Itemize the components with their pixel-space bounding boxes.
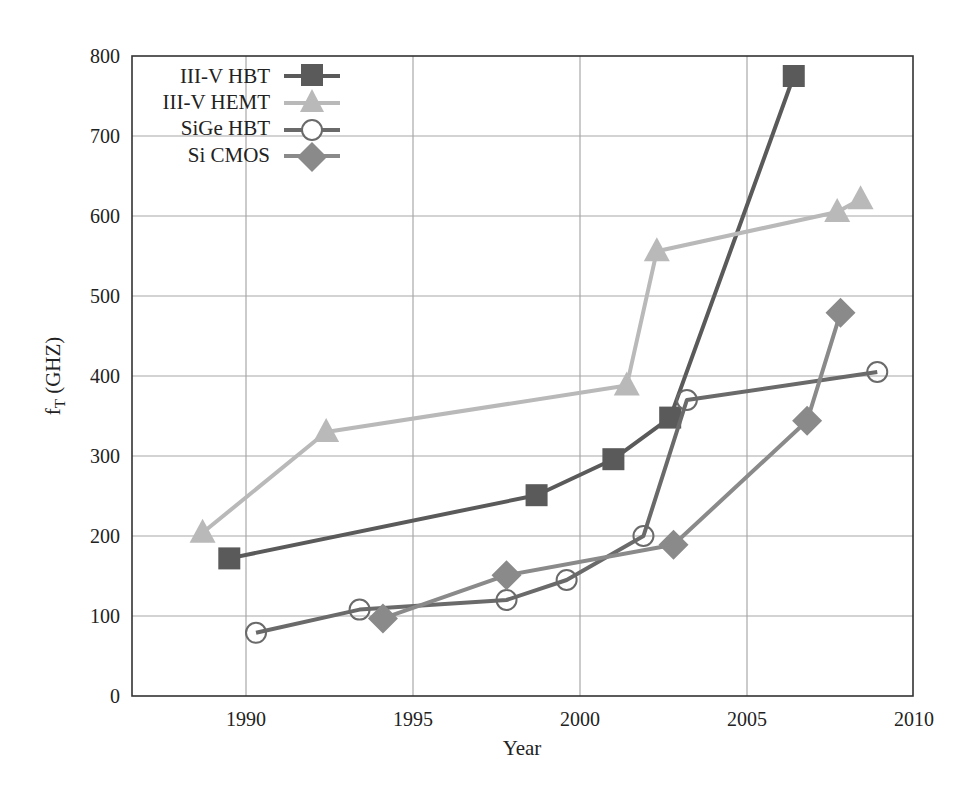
x-axis-title: Year: [503, 736, 542, 760]
square-marker: [602, 448, 624, 470]
x-tick-label: 2000: [560, 708, 600, 730]
triangle-marker: [190, 519, 216, 543]
legend-item-iii-v-hemt: III-V HEMT: [162, 89, 340, 114]
y-tick-label: 300: [90, 445, 120, 467]
circle-marker-icon: [302, 120, 322, 140]
triangle-marker: [848, 185, 874, 209]
triangle-marker: [824, 198, 850, 222]
x-tick-label: 1990: [226, 708, 266, 730]
x-tick-label: 2005: [727, 708, 767, 730]
square-marker-icon: [301, 64, 323, 86]
y-axis-title-unit: (GHZ): [41, 337, 65, 399]
square-marker: [783, 65, 805, 87]
legend-item-si-cmos: Si CMOS: [188, 142, 340, 172]
diamond-marker: [492, 560, 522, 590]
legend-item-iii-v-hbt: III-V HBT: [180, 64, 340, 88]
y-tick-label: 400: [90, 365, 120, 387]
data-series: [190, 65, 888, 643]
y-tick-label: 500: [90, 285, 120, 307]
y-axis-ticks: 0100200300400500600700800: [90, 45, 120, 707]
triangle-marker: [614, 372, 640, 396]
diamond-marker: [826, 298, 856, 328]
legend-label: Si CMOS: [188, 143, 270, 167]
line-chart: 0100200300400500600700800 19901995200020…: [0, 0, 975, 792]
y-axis-title: fT (GHZ): [41, 337, 68, 416]
series-iii-v-hbt: [218, 65, 804, 569]
series-sige-hbt: [246, 362, 887, 643]
x-axis-ticks: 19901995200020052010: [226, 708, 934, 730]
y-axis-title-subscript: T: [52, 399, 68, 408]
legend-label: III-V HEMT: [162, 90, 270, 114]
y-tick-label: 800: [90, 45, 120, 67]
x-tick-label: 2010: [894, 708, 934, 730]
y-tick-label: 600: [90, 205, 120, 227]
square-marker: [218, 547, 240, 569]
legend-item-sige-hbt: SiGe HBT: [181, 116, 340, 140]
y-tick-label: 200: [90, 525, 120, 547]
y-tick-label: 0: [110, 685, 120, 707]
legend-label: III-V HBT: [180, 64, 270, 88]
legend: III-V HBT III-V HEMT SiGe HBT Si CMOS: [162, 64, 340, 172]
series-line: [256, 372, 877, 633]
square-marker: [526, 484, 548, 506]
y-tick-label: 700: [90, 125, 120, 147]
legend-label: SiGe HBT: [181, 116, 270, 140]
y-axis-title-main: f: [41, 408, 65, 415]
series-line: [203, 199, 861, 533]
y-tick-label: 100: [90, 605, 120, 627]
x-tick-label: 1995: [393, 708, 433, 730]
triangle-marker-icon: [300, 89, 324, 112]
diamond-marker-icon: [297, 142, 327, 172]
